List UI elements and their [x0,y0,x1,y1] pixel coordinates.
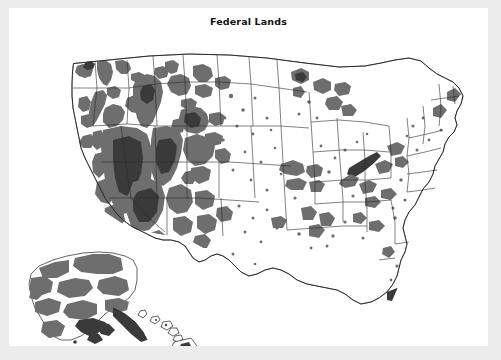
us-federal-lands-map [9,22,488,346]
figure-panel: Federal Lands [9,8,488,346]
alaska-inset [29,252,147,346]
hawaii-inset [138,310,197,346]
figure-root: Federal Lands [0,0,501,360]
